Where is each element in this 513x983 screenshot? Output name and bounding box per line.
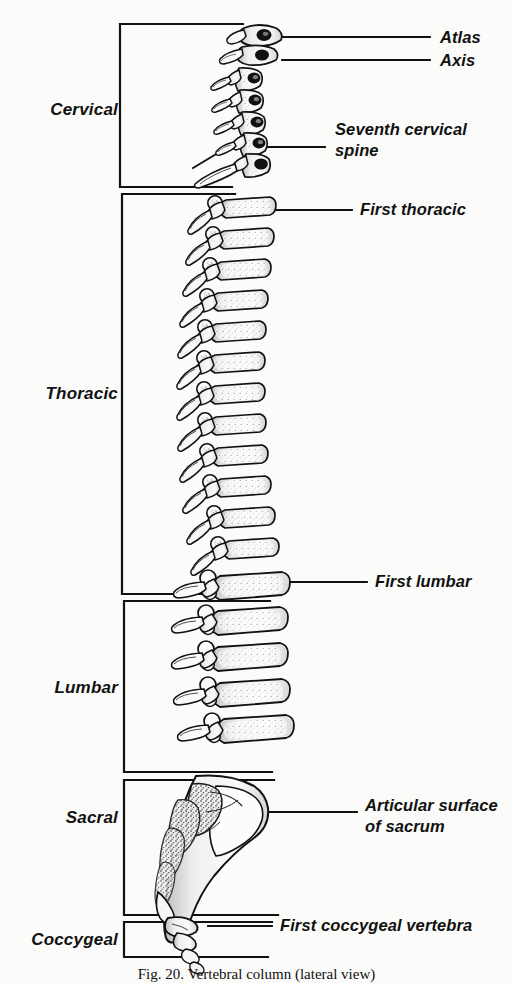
region-label-thoracic: Thoracic — [14, 384, 118, 404]
callout-label-axis: Axis — [440, 50, 475, 71]
callout-label-first-coccygeal-vertebra: First coccygeal vertebra — [280, 915, 472, 936]
callout-line-1: Articular surface — [365, 795, 498, 816]
region-label-sacral: Sacral — [14, 808, 118, 828]
callout-label-seventh-cervical-spine: Seventh cervical spine — [335, 119, 467, 161]
region-label-lumbar: Lumbar — [14, 678, 118, 698]
region-label-cervical: Cervical — [14, 100, 118, 120]
callout-label-articular-surface-sacrum: Articular surface of sacrum — [365, 795, 498, 837]
callout-line-2: of sacrum — [365, 816, 498, 837]
callout-line-1: Seventh cervical — [335, 119, 467, 140]
callout-label-atlas: Atlas — [440, 27, 481, 48]
region-label-coccygeal: Coccygeal — [8, 930, 118, 950]
figure-caption: Fig. 20. Vertebral column (lateral view) — [0, 966, 513, 983]
callout-label-first-thoracic: First thoracic — [360, 199, 466, 220]
callout-label-first-lumbar: First lumbar — [375, 571, 472, 592]
callout-line-2: spine — [335, 140, 467, 161]
